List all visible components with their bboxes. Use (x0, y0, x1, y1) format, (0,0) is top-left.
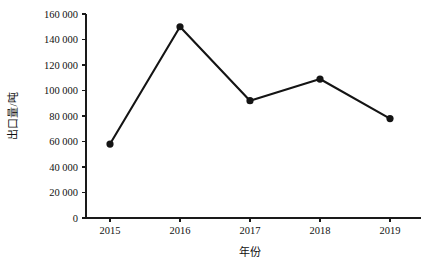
y-tick-label: 100 000 (44, 85, 78, 96)
data-point-marker (316, 75, 323, 82)
plot-area: 020 00040 00060 00080 000100 000120 0001… (44, 9, 421, 236)
y-tick-label: 80 000 (49, 111, 78, 122)
data-point-marker (386, 115, 393, 122)
series-markers (106, 23, 393, 147)
line-chart-figure: 020 00040 00060 00080 000100 000120 0001… (0, 0, 430, 263)
x-tick-label: 2017 (240, 225, 261, 236)
x-tick-label: 2018 (310, 225, 331, 236)
data-point-marker (106, 140, 113, 147)
data-point-marker (246, 97, 253, 104)
y-tick-label: 20 000 (49, 187, 78, 198)
y-tick-label: 120 000 (44, 60, 78, 71)
y-tick-label: 0 (73, 213, 78, 224)
x-tick-label: 2016 (170, 225, 191, 236)
y-tick-label: 60 000 (49, 136, 78, 147)
series-line-export-volume (110, 27, 390, 144)
x-tick-label: 2019 (380, 225, 401, 236)
data-point-marker (176, 23, 183, 30)
y-tick-label: 140 000 (44, 34, 78, 45)
x-tick-label: 2015 (100, 225, 121, 236)
chart-canvas: 020 00040 00060 00080 000100 000120 0001… (0, 0, 430, 263)
y-tick-label: 40 000 (49, 162, 78, 173)
x-axis-ticks: 20152016201720182019 (100, 218, 401, 236)
y-tick-label: 160 000 (44, 9, 78, 20)
y-axis-title: 出口量/吨 (6, 92, 19, 139)
y-axis-ticks: 020 00040 00060 00080 000100 000120 0001… (44, 9, 86, 224)
x-axis-title: 年份 (239, 245, 261, 258)
